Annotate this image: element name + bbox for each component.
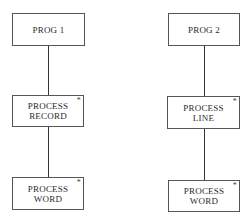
node-prog2: PROG 2: [168, 13, 240, 46]
node-process-word-left: PROCESS WORD *: [12, 177, 84, 210]
node-label: PROG 2: [188, 25, 220, 35]
node-process-record: PROCESS RECORD *: [12, 95, 84, 127]
node-label: PROCESS RECORD: [28, 101, 68, 121]
node-label: PROCESS LINE: [183, 103, 223, 123]
node-process-word-right: PROCESS WORD *: [168, 180, 240, 212]
node-process-line: PROCESS LINE *: [167, 96, 240, 129]
node-label: PROG 1: [33, 25, 65, 35]
node-label: PROCESS WORD: [184, 186, 224, 206]
iteration-marker-icon: *: [233, 98, 237, 106]
connector-process-line-to-process-word: [204, 128, 205, 181]
iteration-marker-icon: *: [233, 182, 237, 190]
iteration-marker-icon: *: [77, 179, 81, 187]
connector-process-record-to-process-word: [48, 126, 49, 178]
node-prog1: PROG 1: [12, 13, 85, 46]
connector-prog1-to-process-record: [48, 45, 49, 96]
node-label: PROCESS WORD: [28, 184, 68, 204]
iteration-marker-icon: *: [77, 97, 81, 105]
connector-prog2-to-process-line: [204, 45, 205, 97]
